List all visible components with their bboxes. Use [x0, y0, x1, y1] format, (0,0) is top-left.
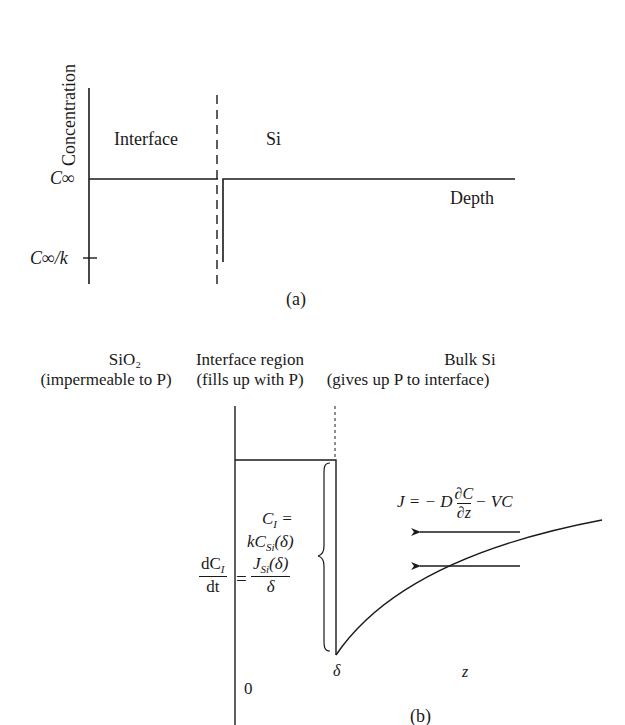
- y-axis-label: Concentration: [60, 64, 78, 166]
- region-label-interface: Interface: [114, 130, 178, 148]
- tick-label-c-inf: C∞: [50, 169, 75, 187]
- equation-jsi-delta: JSi(δ) δ: [251, 555, 290, 595]
- region-subtitle-bulk-si: (gives up P to interface): [314, 371, 502, 388]
- fraction-dc-dz: ∂C∂z: [453, 486, 476, 521]
- equation-dci-dt: dCI dt: [199, 555, 227, 595]
- panel-a-caption: (a): [286, 290, 306, 308]
- tick-label-c-inf-over-k: C∞/k: [30, 249, 68, 267]
- interface-brace: [318, 463, 330, 651]
- region-subtitle-sio2: (impermeable to P): [26, 371, 186, 388]
- equation-ci-lhs: CI =: [262, 510, 293, 530]
- panel-a-graphics: [83, 88, 515, 286]
- panel-b-caption: (b): [410, 707, 431, 725]
- label-delta: δ: [333, 663, 340, 679]
- equation-k-csi: kCSi(δ): [247, 533, 294, 553]
- region-title-sio2: SiO₂: [60, 351, 190, 368]
- fraction-dci-dt: dCI dt: [199, 555, 227, 595]
- x-axis-label-depth: Depth: [450, 189, 494, 207]
- region-title-bulk-si: Bulk Si: [380, 351, 560, 368]
- label-origin: 0: [244, 680, 253, 697]
- equation-flux: J = − D∂C∂z− VC: [397, 486, 513, 521]
- region-label-si: Si: [266, 130, 281, 148]
- region-subtitle-interface: (fills up with P): [182, 371, 318, 388]
- label-z: z: [462, 664, 468, 680]
- equation-equals: =: [236, 569, 247, 588]
- bulk-si-profile-curve: [336, 520, 602, 655]
- fraction-jsi-delta: JSi(δ) δ: [251, 555, 290, 595]
- region-title-interface: Interface region: [180, 351, 320, 368]
